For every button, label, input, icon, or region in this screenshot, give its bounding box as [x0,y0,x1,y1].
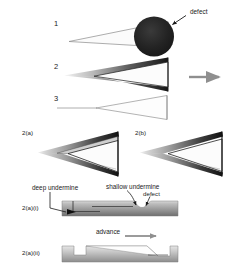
panel-2b-label: 2(b) [135,129,146,136]
stage-2-group [64,58,168,92]
panel-2aii-label: 2(a)(ii) [22,249,40,256]
shallow-undermine-label: shallow undermine [106,183,160,190]
defect-detail-label: defect [143,190,160,197]
panel-2aii-section-group [62,236,178,262]
panel-2ai-slab [62,201,178,216]
panel-2ai-label: 2(a)(i) [22,204,39,211]
panel-2a-wedge-group [38,132,119,177]
stage-label-1: 1 [54,19,58,28]
deep-undermine-label: deep undermine [32,184,79,192]
panel-2a-label: 2(a) [22,129,33,136]
defect-top-label: defect [190,8,208,15]
stage-label-2: 2 [54,62,58,71]
stage-3-group [57,96,167,120]
defect-pointer-icon [173,16,187,25]
stage-label-3: 3 [54,94,58,103]
stage-3-wedge [96,96,167,120]
advance-label: advance [96,228,121,235]
panel-2b-wedge-group [140,132,223,177]
figure-container: 1 2 3 defect 2(a) 2(b) deep undermine sh… [0,0,251,275]
figure-diagram: 1 2 3 defect 2(a) 2(b) deep undermine sh… [0,0,251,275]
stage-1-group [69,16,186,57]
stage-1-defect-circle [134,17,174,57]
